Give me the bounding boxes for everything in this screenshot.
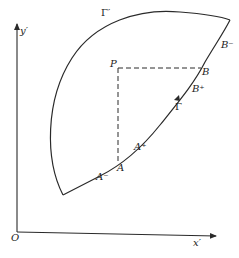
point-p-label: P xyxy=(109,58,117,69)
point-a-minus-label: A⁻ xyxy=(95,171,109,182)
point-b-plus-label: B⁺ xyxy=(191,83,205,94)
gamma-curve xyxy=(63,20,230,195)
y-axis-label: y′ xyxy=(19,25,29,36)
point-b-minus-label: B⁻ xyxy=(220,39,234,50)
point-b-label: B xyxy=(201,66,209,77)
x-axis xyxy=(17,232,216,236)
gamma-label: Γ xyxy=(175,101,182,112)
point-a-plus-label: A⁺ xyxy=(133,141,147,152)
gamma-prime-curve xyxy=(50,11,230,195)
origin-label: O xyxy=(11,232,19,243)
diagram-figure: y′ x′ O Γ′ Γ P A A⁻ A⁺ B B⁺ B⁻ xyxy=(0,0,239,258)
gamma-prime-label: Γ′ xyxy=(101,7,111,18)
x-axis-label: x′ xyxy=(193,237,202,248)
point-a-label: A xyxy=(116,162,124,173)
